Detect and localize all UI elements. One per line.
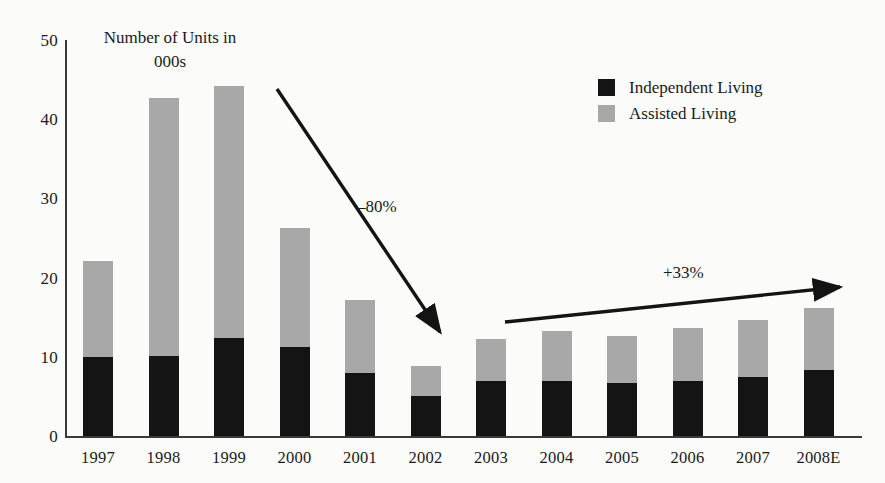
- bar-segment-assisted-living: [214, 86, 244, 338]
- bar-segment-assisted-living: [607, 336, 637, 383]
- x-tick-label-2002: 2002: [389, 449, 463, 467]
- bar-2004[interactable]: [542, 331, 572, 436]
- bar-2003[interactable]: [476, 339, 506, 436]
- bar-2007[interactable]: [738, 320, 768, 436]
- y-tick-label: 40: [10, 111, 58, 128]
- x-tick-label-2000: 2000: [258, 449, 332, 467]
- decline-annotation-label: –80%: [357, 198, 397, 215]
- growth-annotation-label: +33%: [663, 264, 704, 281]
- x-tick-label-2007: 2007: [716, 449, 790, 467]
- bar-2005[interactable]: [607, 336, 637, 436]
- bar-segment-independent-living: [804, 370, 834, 436]
- y-tick-label: 0: [10, 428, 58, 445]
- x-tick-label-2001: 2001: [323, 449, 397, 467]
- x-tick-label-2005: 2005: [585, 449, 659, 467]
- bar-segment-independent-living: [149, 356, 179, 436]
- x-tick-label-1999: 1999: [192, 449, 266, 467]
- bar-2008E[interactable]: [804, 308, 834, 436]
- legend-label-assisted-living: Assisted Living: [629, 105, 736, 122]
- legend-label-independent-living: Independent Living: [629, 79, 763, 96]
- bar-1998[interactable]: [149, 98, 179, 436]
- legend: Independent Living Assisted Living: [598, 74, 763, 126]
- x-tick-label-2008E: 2008E: [782, 449, 856, 467]
- x-tick-label-1997: 1997: [61, 449, 135, 467]
- bar-segment-independent-living: [607, 383, 637, 436]
- legend-item-assisted-living: Assisted Living: [598, 100, 763, 126]
- bar-2002[interactable]: [411, 366, 441, 436]
- y-tick-label: 10: [10, 349, 58, 366]
- bar-segment-assisted-living: [738, 320, 768, 377]
- bar-segment-assisted-living: [149, 98, 179, 356]
- x-axis-line: [65, 436, 862, 438]
- bar-1997[interactable]: [83, 261, 113, 436]
- bar-segment-assisted-living: [542, 331, 572, 381]
- bar-segment-independent-living: [476, 381, 506, 436]
- bar-1999[interactable]: [214, 86, 244, 436]
- y-tick-label: 30: [10, 190, 58, 207]
- bar-segment-independent-living: [83, 357, 113, 436]
- bar-segment-assisted-living: [345, 300, 375, 374]
- legend-item-independent-living: Independent Living: [598, 74, 763, 100]
- bar-segment-assisted-living: [476, 339, 506, 382]
- y-tick-label: 20: [10, 270, 58, 287]
- legend-swatch-independent-living: [598, 79, 615, 96]
- bar-segment-assisted-living: [411, 366, 441, 396]
- bar-segment-independent-living: [280, 347, 310, 436]
- bar-2000[interactable]: [280, 228, 310, 436]
- bar-segment-independent-living: [411, 396, 441, 436]
- bar-segment-independent-living: [542, 381, 572, 436]
- legend-swatch-assisted-living: [598, 105, 615, 122]
- bar-2006[interactable]: [673, 328, 703, 436]
- y-tick-label: 50: [10, 32, 58, 49]
- bar-segment-assisted-living: [83, 261, 113, 357]
- bar-segment-independent-living: [214, 338, 244, 436]
- x-tick-label-2003: 2003: [454, 449, 528, 467]
- x-tick-label-2004: 2004: [520, 449, 594, 467]
- bar-segment-independent-living: [345, 373, 375, 436]
- x-tick-label-2006: 2006: [651, 449, 725, 467]
- x-tick-label-1998: 1998: [127, 449, 201, 467]
- bar-segment-assisted-living: [804, 308, 834, 371]
- bar-2001[interactable]: [345, 300, 375, 436]
- chart-canvas: Number of Units in 000s 50403020100 1997…: [0, 0, 885, 483]
- bar-segment-independent-living: [738, 377, 768, 436]
- bar-segment-independent-living: [673, 381, 703, 436]
- y-axis-tick-labels: 50403020100: [0, 0, 58, 483]
- bar-segment-assisted-living: [673, 328, 703, 380]
- bar-segment-assisted-living: [280, 228, 310, 348]
